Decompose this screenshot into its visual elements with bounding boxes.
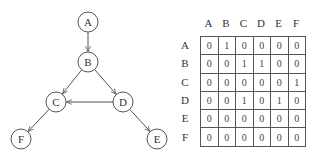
matrix-cell: 0: [236, 37, 254, 55]
directed-graph: ABCDEF: [0, 0, 175, 162]
matrix-cell: 0: [271, 110, 289, 128]
row-header: B: [178, 57, 192, 69]
edge-C-F: [28, 109, 49, 131]
matrix-cell: 1: [271, 91, 289, 109]
matrix-cell: 0: [271, 37, 289, 55]
node-label: B: [84, 56, 91, 68]
node-label: F: [18, 133, 24, 145]
matrix-cell: 0: [288, 37, 306, 55]
matrix-cell: 0: [218, 55, 236, 73]
matrix-row-D: 001010: [201, 91, 306, 109]
matrix-row-B: 001100: [201, 55, 306, 73]
edge-B-D: [95, 70, 117, 95]
matrix-cell: 0: [236, 73, 254, 91]
node-label: E: [154, 133, 161, 145]
node-E: E: [147, 129, 167, 149]
column-header: A: [200, 17, 217, 29]
node-label: C: [52, 96, 59, 108]
matrix-cell: 0: [253, 110, 271, 128]
matrix-cell: 0: [253, 73, 271, 91]
node-C: C: [46, 92, 66, 112]
row-header: A: [178, 39, 192, 51]
edge-B-C: [63, 70, 82, 94]
node-F: F: [11, 129, 31, 149]
matrix-cell: 0: [218, 73, 236, 91]
column-header: C: [235, 17, 252, 29]
matrix-cell: 0: [201, 110, 219, 128]
adjacency-matrix: 010000001100000001001010000000000000: [200, 36, 306, 147]
node-B: B: [78, 52, 98, 72]
matrix-cell: 1: [236, 91, 254, 109]
matrix-cell: 1: [218, 37, 236, 55]
matrix-row-F: 000000: [201, 128, 306, 146]
matrix-row-A: 010000: [201, 37, 306, 55]
matrix-cell: 0: [288, 128, 306, 146]
matrix-row-C: 000001: [201, 73, 306, 91]
node-label: D: [119, 96, 127, 108]
row-header: C: [178, 76, 192, 88]
column-header: B: [218, 17, 235, 29]
edge-D-E: [130, 109, 150, 131]
matrix-cell: 0: [253, 128, 271, 146]
matrix-cell: 1: [236, 55, 254, 73]
matrix-cell: 0: [236, 110, 254, 128]
matrix-cell: 0: [218, 91, 236, 109]
column-header: F: [288, 17, 305, 29]
matrix-cell: 0: [288, 91, 306, 109]
matrix-cell: 1: [253, 55, 271, 73]
matrix-cell: 0: [201, 37, 219, 55]
row-header: F: [178, 131, 192, 143]
row-header: E: [178, 112, 192, 124]
matrix-cell: 0: [201, 73, 219, 91]
column-header: D: [253, 17, 270, 29]
matrix-cell: 0: [218, 128, 236, 146]
matrix-cell: 0: [271, 73, 289, 91]
matrix-row-E: 000000: [201, 110, 306, 128]
node-D: D: [113, 92, 133, 112]
matrix-cell: 0: [253, 37, 271, 55]
matrix-cell: 0: [288, 55, 306, 73]
column-header: E: [270, 17, 287, 29]
node-A: A: [78, 12, 98, 32]
matrix-cell: 0: [271, 128, 289, 146]
matrix-cell: 1: [288, 73, 306, 91]
matrix-cell: 0: [201, 91, 219, 109]
matrix-cell: 0: [201, 55, 219, 73]
row-header: D: [178, 94, 192, 106]
matrix-cell: 0: [271, 55, 289, 73]
matrix-cell: 0: [236, 128, 254, 146]
matrix-cell: 0: [201, 128, 219, 146]
matrix-cell: 0: [253, 91, 271, 109]
node-label: A: [84, 16, 92, 28]
matrix-cell: 0: [218, 110, 236, 128]
matrix-cell: 0: [288, 110, 306, 128]
